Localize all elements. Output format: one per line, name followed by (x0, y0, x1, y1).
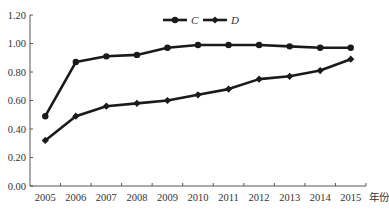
diamond-marker-icon (255, 76, 262, 83)
legend-label: C (191, 14, 199, 26)
plot-area (42, 42, 355, 144)
legend-label: D (230, 14, 239, 26)
diamond-marker-icon (347, 56, 354, 63)
x-tick-label: 2011 (218, 192, 239, 203)
diamond-marker-icon (133, 100, 140, 107)
y-tick-label: 1.00 (8, 38, 26, 49)
circle-marker-icon (225, 42, 231, 48)
x-tick-label: 2005 (35, 192, 56, 203)
circle-marker-icon (195, 42, 201, 48)
circle-marker-icon (42, 113, 48, 119)
circle-marker-icon (134, 52, 140, 58)
diamond-marker-icon (286, 73, 293, 80)
y-tick-label: 0.40 (8, 124, 26, 135)
x-axis: 2005200620072008200920102011201220132014… (30, 183, 389, 203)
y-tick-label: 0.00 (8, 181, 26, 192)
diamond-marker-icon (211, 16, 218, 23)
x-tick-label: 2010 (188, 192, 209, 203)
x-tick-label: 2009 (157, 192, 178, 203)
y-tick-label: 0.60 (8, 95, 26, 106)
series-D (42, 56, 355, 144)
y-tick-label: 0.80 (8, 67, 26, 78)
circle-marker-icon (73, 59, 79, 65)
circle-marker-icon (172, 17, 178, 23)
y-tick-label: 1.20 (8, 10, 26, 21)
x-tick-label: 2015 (340, 192, 361, 203)
x-tick-label: 2014 (310, 192, 332, 203)
x-tick-label: 2012 (249, 192, 270, 203)
diamond-marker-icon (103, 103, 110, 110)
circle-marker-icon (286, 43, 292, 49)
series-C (42, 42, 354, 120)
legend-item-D: D (203, 14, 239, 26)
diamond-marker-icon (194, 91, 201, 98)
x-tick-label: 2008 (126, 192, 147, 203)
circle-marker-icon (348, 45, 354, 51)
x-tick-label: 2006 (65, 192, 86, 203)
diamond-marker-icon (225, 86, 232, 93)
diamond-marker-icon (317, 67, 324, 74)
y-tick-label: 0.20 (8, 152, 26, 163)
y-axis: 0.000.200.400.600.801.001.20 (8, 10, 33, 192)
x-tick-label: 2007 (96, 192, 117, 203)
x-axis-label: 年份 (369, 191, 389, 203)
circle-marker-icon (317, 45, 323, 51)
diamond-marker-icon (164, 97, 171, 104)
circle-marker-icon (164, 45, 170, 51)
legend: CD (163, 14, 239, 26)
circle-marker-icon (256, 42, 262, 48)
x-tick-label: 2013 (279, 192, 300, 203)
line-chart: 0.000.200.400.600.801.001.20 20052006200… (0, 0, 389, 216)
circle-marker-icon (103, 53, 109, 59)
legend-item-C: C (163, 14, 199, 26)
